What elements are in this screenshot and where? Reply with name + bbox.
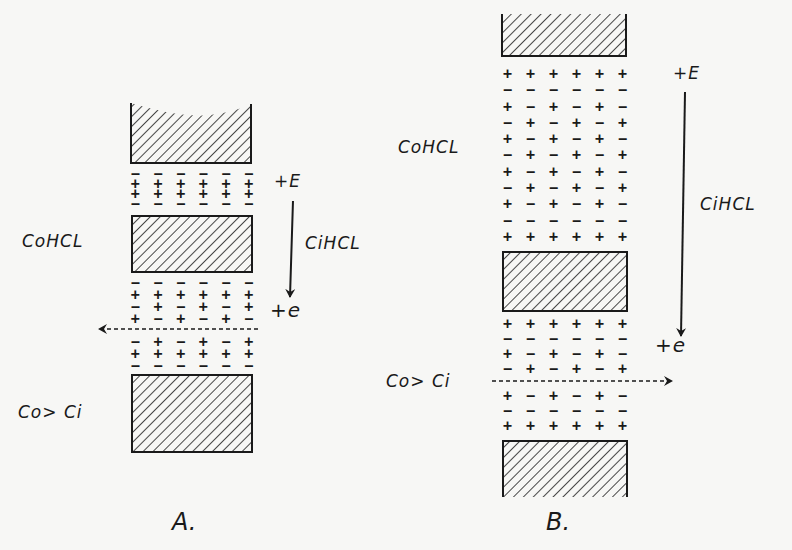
- negative-charge-symbol: −: [169, 199, 192, 209]
- negative-charge-symbol: −: [565, 99, 588, 115]
- positive-charge-symbol: +: [588, 99, 611, 115]
- panel-b-caption: B.: [546, 508, 570, 536]
- positive-charge-symbol: +: [496, 419, 519, 434]
- panel-b-label-cohcl: CoHCL: [398, 137, 459, 157]
- negative-charge-symbol: −: [611, 99, 634, 115]
- panel-a-label-co-gt-ci: Co> Ci: [18, 402, 83, 422]
- panel-b-block-top: [502, 14, 626, 56]
- positive-charge-symbol: +: [519, 147, 542, 163]
- positive-charge-symbol: +: [611, 180, 634, 196]
- positive-charge-symbol: +: [565, 180, 588, 196]
- positive-charge-symbol: +: [588, 131, 611, 147]
- positive-charge-symbol: +: [588, 419, 611, 434]
- panel-a-label-plus-e: +e: [270, 298, 301, 322]
- positive-charge-symbol: +: [519, 229, 542, 245]
- positive-charge-symbol: +: [496, 164, 519, 180]
- panel-b-block-middle: [503, 252, 627, 311]
- positive-charge-symbol: +: [565, 362, 588, 377]
- negative-charge-symbol: −: [542, 180, 565, 196]
- negative-charge-symbol: −: [237, 360, 260, 372]
- negative-charge-symbol: −: [215, 199, 238, 209]
- negative-charge-symbol: −: [542, 147, 565, 163]
- negative-charge-symbol: −: [237, 313, 260, 325]
- positive-charge-symbol: +: [542, 419, 565, 434]
- panel-b-charges-top: ++++++−−−−−−+−+−+−−+−+−++−+−+−−+−+−++−+−…: [496, 66, 634, 245]
- positive-charge-symbol: +: [124, 313, 147, 325]
- negative-charge-symbol: −: [542, 115, 565, 131]
- positive-charge-symbol: +: [542, 164, 565, 180]
- positive-charge-symbol: +: [542, 131, 565, 147]
- negative-charge-symbol: −: [237, 199, 260, 209]
- negative-charge-symbol: −: [588, 180, 611, 196]
- negative-charge-symbol: −: [565, 82, 588, 98]
- panel-a-charges-bottom-upper: −−−−−−++++++−+−+−++−+−+−: [124, 277, 260, 325]
- positive-charge-symbol: +: [588, 164, 611, 180]
- positive-charge-symbol: +: [588, 196, 611, 212]
- positive-charge-symbol: +: [542, 229, 565, 245]
- negative-charge-symbol: −: [565, 164, 588, 180]
- negative-charge-symbol: −: [169, 360, 192, 372]
- negative-charge-symbol: −: [496, 82, 519, 98]
- positive-charge-symbol: +: [496, 99, 519, 115]
- panel-a-label-cihcl: CiHCL: [305, 233, 361, 253]
- positive-charge-symbol: +: [565, 66, 588, 82]
- positive-charge-symbol: +: [588, 66, 611, 82]
- panel-a-block-top: [131, 103, 251, 163]
- negative-charge-symbol: −: [588, 147, 611, 163]
- negative-charge-symbol: −: [147, 360, 170, 372]
- positive-charge-symbol: +: [611, 147, 634, 163]
- negative-charge-symbol: −: [588, 213, 611, 229]
- positive-charge-symbol: +: [519, 180, 542, 196]
- negative-charge-symbol: −: [611, 164, 634, 180]
- negative-charge-symbol: −: [565, 131, 588, 147]
- panel-b-field-arrow: [681, 92, 685, 336]
- negative-charge-symbol: −: [588, 82, 611, 98]
- panel-a-label-cohcl: CoHCL: [22, 231, 83, 251]
- negative-charge-symbol: −: [611, 131, 634, 147]
- negative-charge-symbol: −: [124, 360, 147, 372]
- negative-charge-symbol: −: [519, 131, 542, 147]
- negative-charge-symbol: −: [496, 115, 519, 131]
- panel-b-charges-bottom-lower: +−+−+−−−−−−−++++++: [496, 389, 634, 434]
- negative-charge-symbol: −: [215, 360, 238, 372]
- panel-a-charges-bottom-lower: −+−+−+++++++−−−−−−: [124, 336, 260, 372]
- negative-charge-symbol: −: [147, 313, 170, 325]
- positive-charge-symbol: +: [611, 419, 634, 434]
- positive-charge-symbol: +: [496, 66, 519, 82]
- negative-charge-symbol: −: [192, 360, 215, 372]
- negative-charge-symbol: −: [496, 147, 519, 163]
- negative-charge-symbol: −: [519, 196, 542, 212]
- panel-b-label-plus-E: +E: [673, 63, 700, 83]
- negative-charge-symbol: −: [496, 213, 519, 229]
- negative-charge-symbol: −: [147, 199, 170, 209]
- positive-charge-symbol: +: [611, 229, 634, 245]
- positive-charge-symbol: +: [565, 115, 588, 131]
- positive-charge-symbol: +: [169, 313, 192, 325]
- negative-charge-symbol: −: [192, 313, 215, 325]
- panel-a-block-middle: [132, 216, 252, 272]
- positive-charge-symbol: +: [611, 66, 634, 82]
- positive-charge-symbol: +: [542, 99, 565, 115]
- panel-b-block-bottom: [503, 441, 627, 497]
- panel-a-block-bottom: [132, 375, 252, 452]
- negative-charge-symbol: −: [611, 82, 634, 98]
- panel-b-label-plus-e: +e: [655, 333, 686, 357]
- negative-charge-symbol: −: [588, 115, 611, 131]
- positive-charge-symbol: +: [611, 115, 634, 131]
- panel-b-charges-bottom-upper: ++++++−−−−−−+−+−+−−+−+−+: [496, 317, 634, 377]
- positive-charge-symbol: +: [519, 66, 542, 82]
- positive-charge-symbol: +: [588, 229, 611, 245]
- negative-charge-symbol: −: [496, 362, 519, 377]
- negative-charge-symbol: −: [519, 213, 542, 229]
- panel-b-label-co-gt-ci: Co> Ci: [386, 371, 451, 391]
- positive-charge-symbol: +: [542, 196, 565, 212]
- negative-charge-symbol: −: [611, 213, 634, 229]
- negative-charge-symbol: −: [542, 213, 565, 229]
- negative-charge-symbol: −: [565, 196, 588, 212]
- panel-a-label-plus-E: +E: [274, 171, 301, 191]
- negative-charge-symbol: −: [519, 99, 542, 115]
- negative-charge-symbol: −: [542, 362, 565, 377]
- negative-charge-symbol: −: [496, 180, 519, 196]
- negative-charge-symbol: −: [124, 199, 147, 209]
- panel-a-charges-top: −−−−−−++++++++++++−−−−−−: [124, 169, 260, 209]
